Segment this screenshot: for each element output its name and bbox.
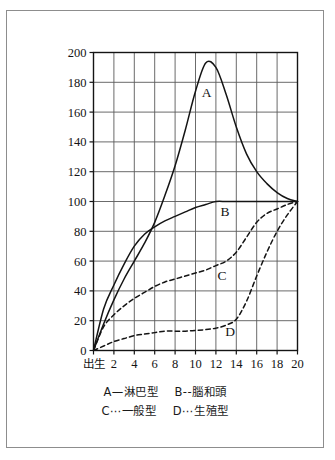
series-letter-layer: ABCD: [202, 85, 235, 338]
x-axis-tick-labels: 出生2468101214161820: [83, 357, 304, 371]
x-axis-tick-label: 4: [131, 357, 138, 371]
y-axis-tick-labels: 020406080100120140160180200: [68, 46, 87, 358]
x-axis-tick-label: 6: [152, 357, 158, 371]
legend-row: C⋯一般型 D⋯生殖型: [6, 402, 324, 421]
legend-entry-b: B--腦和頭: [174, 383, 226, 402]
legend-entry-d: D⋯生殖型: [173, 402, 229, 421]
x-axis-tick-label: 16: [250, 357, 263, 371]
x-axis-tick-label: 10: [189, 357, 202, 371]
x-axis-tick-label: 18: [271, 357, 284, 371]
legend-row: A—淋巴型 B--腦和頭: [6, 383, 324, 402]
y-axis-tick-label: 40: [74, 284, 87, 298]
legend-entry-c: C⋯一般型: [101, 402, 156, 421]
y-axis-tick-label: 60: [74, 255, 87, 269]
x-axis-tick-label: 12: [210, 357, 223, 371]
series-label-d: D: [225, 324, 235, 339]
x-axis-tick-label: 8: [172, 357, 178, 371]
y-axis-tick-label: 160: [68, 106, 87, 120]
x-axis-tick-label: 20: [291, 357, 304, 371]
x-axis-tick-label: 14: [230, 357, 243, 371]
y-axis-tick-label: 100: [68, 195, 87, 209]
y-axis-tick-label: 180: [68, 76, 87, 90]
x-axis-origin-label: 出生: [83, 357, 105, 371]
legend: A—淋巴型 B--腦和頭 C⋯一般型 D⋯生殖型: [6, 383, 324, 421]
legend-entry-a: A—淋巴型: [103, 383, 158, 402]
figure-root: 020406080100120140160180200 出生2468101214…: [0, 0, 335, 460]
series-label-c: C: [218, 268, 227, 283]
y-axis-tick-label: 80: [74, 225, 87, 239]
series-label-b: B: [221, 204, 230, 219]
y-axis-tick-label: 140: [68, 135, 87, 149]
y-axis-tick-label: 120: [68, 165, 87, 179]
y-axis-tick-label: 20: [74, 314, 87, 328]
series-label-a: A: [202, 85, 212, 100]
y-axis-tick-label: 200: [68, 46, 87, 60]
x-axis-tick-label: 2: [111, 357, 117, 371]
